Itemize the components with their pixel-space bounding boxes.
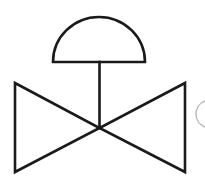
cropped-circle-arc-icon xyxy=(196,101,205,127)
valve-body-right-triangle-icon xyxy=(100,83,186,172)
actuator-dome-icon xyxy=(53,17,145,62)
valve-symbol-svg xyxy=(0,0,205,191)
valve-symbol-canvas xyxy=(0,0,205,191)
valve-body-left-triangle-icon xyxy=(15,83,100,172)
